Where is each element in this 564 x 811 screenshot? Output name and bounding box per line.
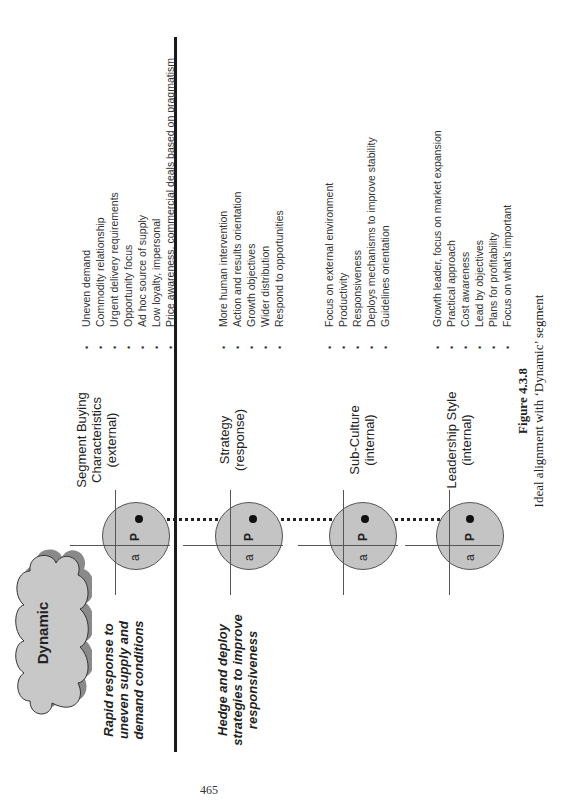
list-item: •Ad hoc source of supply: [136, 58, 150, 349]
label-p-4: P: [463, 533, 477, 541]
list-item: •Commodity relationship: [94, 58, 108, 349]
list-item: •Growth leader, focus on market expansio…: [431, 130, 445, 349]
segment-label-hedge-deploy: Hedge and deploy strategies to improve r…: [215, 605, 260, 755]
axis-vertical-3: [298, 545, 398, 546]
position-dot-1: [135, 515, 143, 523]
label-p-2: P: [242, 533, 256, 541]
list-item: •Urgent delivery requirements: [108, 58, 122, 349]
figure-caption-title: Figure 4.3.8: [515, 281, 531, 521]
list-item: •Responsiveness: [351, 137, 365, 349]
label-a-1: a: [128, 554, 142, 561]
cloud-shape-icon: [12, 533, 92, 723]
list-item: •Cost awareness: [459, 130, 473, 349]
list-item: •Deploys mechanisms to improve stability: [365, 137, 379, 349]
axis-vertical-4: [405, 545, 500, 546]
list-item: •Productivity: [337, 137, 351, 349]
list-item: •Focus on external environment: [323, 137, 337, 349]
label-a-3: a: [356, 554, 370, 561]
cloud-connector-line: [70, 545, 100, 546]
list-item: •Wider distribution: [259, 192, 273, 349]
list-item: •Uneven demand: [80, 58, 94, 349]
list-item: •Respond to opportunities: [273, 192, 287, 349]
list-item: •More human intervention: [217, 192, 231, 349]
list-item: •Focus on what's important: [501, 130, 515, 349]
axis-vertical-2: [183, 545, 283, 546]
list-item: •Opportunity focus: [122, 58, 136, 349]
heading-sub-culture: Sub-Culture (internal): [347, 370, 377, 510]
figure-caption-text: Ideal alignment with ‘Dynamic’ segment: [531, 281, 547, 521]
page-number: 465: [200, 783, 218, 798]
alignment-dotted-line: [138, 518, 470, 521]
segment-label-rapid-response: Rapid response to uneven supply and dema…: [101, 605, 146, 755]
bullet-list-segment-buying: •Uneven demand •Commodity relationship •…: [80, 58, 178, 349]
label-p-1: P: [128, 533, 142, 541]
list-item: •Low loyalty, impersonal: [150, 58, 164, 349]
label-p-3: P: [356, 533, 370, 541]
position-dot-3: [361, 515, 369, 523]
list-item: •Guidelines orientation: [379, 137, 393, 349]
heading-segment-buying: Segment Buying Characteristics (external…: [74, 370, 119, 510]
position-dot-2: [249, 515, 257, 523]
cloud-label: Dynamic: [34, 543, 51, 723]
bullet-list-sub-culture: •Focus on external environment •Producti…: [323, 137, 393, 349]
list-item: •Practical approach: [445, 130, 459, 349]
position-dot-4: [466, 515, 474, 523]
heading-strategy: Strategy (response): [217, 370, 247, 510]
list-item: •Plans for profitability: [487, 130, 501, 349]
heading-leadership-style: Leadership Style (internal): [444, 370, 474, 510]
list-item: •Price awareness, commercial deals based…: [164, 58, 178, 349]
axis-horizontal-3: [343, 490, 344, 595]
list-item: •Growth objectives: [245, 192, 259, 349]
label-a-4: a: [463, 554, 477, 561]
rotated-figure: Dynamic P a P a P a P a Segment Buying C…: [0, 0, 564, 811]
bullet-list-leadership-style: •Growth leader, focus on market expansio…: [431, 130, 515, 349]
axis-vertical-1-over: [100, 545, 170, 546]
bullet-list-strategy: •More human intervention •Action and res…: [217, 192, 287, 349]
label-a-2: a: [242, 554, 256, 561]
list-item: •Lead by objectives: [473, 130, 487, 349]
list-item: •Action and results orientation: [231, 192, 245, 349]
